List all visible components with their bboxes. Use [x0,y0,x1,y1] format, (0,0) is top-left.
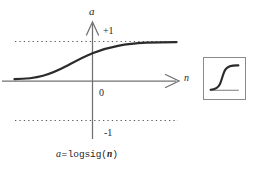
logsig-curve [15,42,177,79]
logsig-transfer-function-figure: a n +1 -1 0 a=logsig(n) [0,0,257,170]
equation-close-paren: ) [112,149,118,160]
icon-sigmoid-curve [211,65,239,89]
origin-label: 0 [99,88,104,98]
x-axis-label: n [184,73,189,83]
log-sigmoid-transfer-function-icon [203,57,246,100]
y-axis-label: a [89,6,95,17]
equation-operator: = [61,149,68,160]
lower-asymptote-label: -1 [104,128,112,138]
equation-function-name: logsig [68,149,102,160]
figure-caption-equation: a=logsig(n) [56,149,118,160]
log-sigmoid-icon-glyph [204,58,245,99]
upper-asymptote-label: +1 [103,26,113,36]
